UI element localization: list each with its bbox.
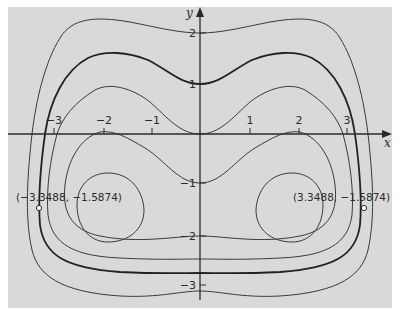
x-tick-label: −2 [96,114,112,127]
point-label-right: (3.3488, −1.5874) [293,191,390,203]
point-marker-left [36,205,41,210]
y-tick-label: −3 [180,279,196,292]
y-tick-label: −2 [180,230,196,243]
y-tick-label: 2 [189,27,196,40]
x-tick-label: −3 [46,114,62,127]
y-tick-label: 1 [189,78,196,91]
x-tick-label: 1 [247,114,254,127]
x-tick-label: −1 [144,114,160,127]
x-tick-label: 2 [296,114,303,127]
x-tick-label: 3 [344,114,351,127]
y-axis-label: y [185,6,193,20]
point-marker-right [361,205,366,210]
contour-plot: −3 −2 −1 1 2 3 2 1 −1 −2 −3 x y (−3.3488… [0,0,400,313]
x-axis-label: x [384,136,391,150]
point-label-left: (−3.3488, −1.5874) [16,191,122,203]
y-tick-label: −1 [180,177,196,190]
